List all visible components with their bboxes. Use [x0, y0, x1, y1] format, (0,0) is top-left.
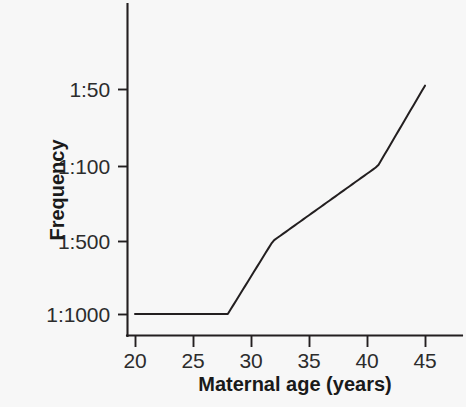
x-tick-label-45: 45 [413, 350, 436, 371]
x-tick-label-20: 20 [123, 350, 146, 371]
y-tick-label-1-50: 1:50 [10, 79, 110, 100]
x-tick-label-25: 25 [181, 350, 204, 371]
y-tick-label-1-1000: 1:1000 [10, 304, 110, 325]
frequency-curve [135, 86, 425, 314]
chart-figure: 1:50 1:100 1:500 1:1000 20 25 30 35 40 4… [0, 0, 466, 407]
chart-plot-area [0, 0, 466, 407]
x-axis-title: Maternal age (years) [198, 374, 391, 394]
x-tick-label-35: 35 [297, 350, 320, 371]
x-tick-label-40: 40 [355, 350, 378, 371]
y-axis-title: Frequency [47, 139, 67, 240]
x-tick-label-30: 30 [239, 350, 262, 371]
